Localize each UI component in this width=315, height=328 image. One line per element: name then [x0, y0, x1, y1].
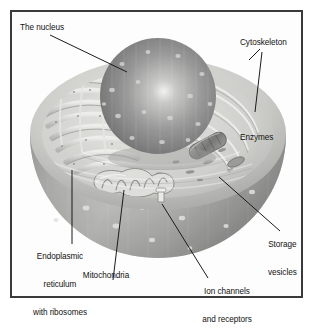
leader-nucleus: [50, 35, 127, 72]
label-storage-line1: Storage: [268, 240, 297, 249]
label-ion-line2: and receptors: [188, 315, 266, 324]
nuclear-envelope: [100, 38, 216, 154]
label-endoplasmic-reticulum: Endoplasmic reticulum with ribosomes: [17, 233, 103, 328]
label-ion-line1: Ion channels: [188, 287, 266, 296]
label-enzymes: Enzymes: [240, 133, 273, 142]
label-storage-vesicles: Storage vesicles: [268, 221, 297, 296]
label-the-nucleus: The nucleus: [20, 23, 64, 32]
label-er-line2: reticulum: [17, 280, 103, 289]
label-mitochondria: Mitochondria: [70, 271, 142, 280]
label-storage-line2: vesicles: [268, 268, 297, 277]
label-er-line1: Endoplasmic: [17, 252, 103, 261]
leader-cytoskeleton-tick: [249, 49, 260, 60]
label-ion-channels: Ion channels and receptors: [188, 268, 266, 328]
label-er-line3: with ribosomes: [17, 308, 103, 317]
label-cytoskeleton: Cytoskeleton: [240, 38, 287, 47]
